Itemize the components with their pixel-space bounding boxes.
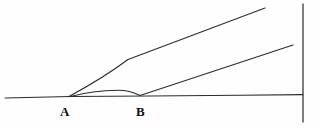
point-label-b: B bbox=[136, 105, 145, 118]
figure-svg bbox=[0, 0, 314, 129]
horizontal-baseline bbox=[5, 95, 303, 98]
point-label-a: A bbox=[60, 105, 69, 118]
upper-rising-line bbox=[69, 8, 265, 97]
figure-canvas: A B bbox=[0, 0, 314, 129]
lower-rising-line bbox=[140, 45, 293, 96]
